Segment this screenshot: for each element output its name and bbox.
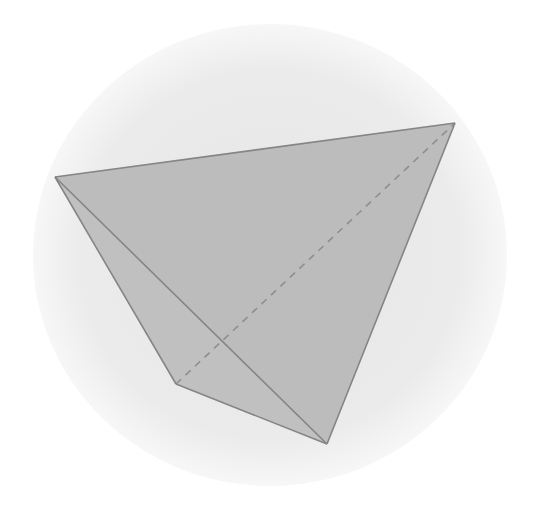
tetrahedron-diagram bbox=[0, 0, 535, 512]
